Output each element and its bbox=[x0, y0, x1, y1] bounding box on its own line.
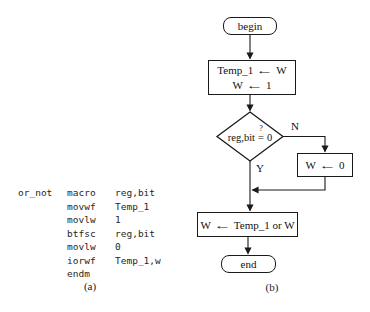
assign-rhs: W bbox=[276, 64, 286, 76]
process-line: W←1 bbox=[233, 78, 272, 93]
assign-rhs: 0 bbox=[339, 159, 345, 171]
question-equals-icon: ?= bbox=[258, 132, 264, 143]
assign-lhs: W bbox=[306, 159, 316, 171]
assign-lhs: Temp_1 bbox=[217, 64, 253, 76]
begin-node: begin bbox=[223, 17, 277, 35]
process-box-or: W←Temp_1 or W bbox=[197, 212, 298, 237]
assign-lhs: W bbox=[200, 219, 210, 231]
process-box-w-zero: W←0 bbox=[297, 153, 353, 177]
condition-value: 0 bbox=[267, 132, 272, 143]
decision-condition: reg,bit?=0 bbox=[214, 127, 286, 147]
condition-text: reg,bit bbox=[228, 132, 255, 143]
begin-label: begin bbox=[238, 20, 262, 32]
assign-arrow-icon: ← bbox=[246, 78, 264, 93]
branch-label-no: N bbox=[291, 120, 299, 132]
assign-rhs: Temp_1 or W bbox=[234, 219, 295, 231]
edge-no-box-to-merge bbox=[253, 177, 326, 190]
macro-flowchart-figure: or_not macro reg,bit movwf Temp_1 movlw … bbox=[0, 0, 370, 312]
process-line: W←0 bbox=[306, 159, 345, 171]
assign-arrow-icon: ← bbox=[319, 159, 337, 171]
assign-lhs: W bbox=[233, 79, 243, 91]
question-mark: ? bbox=[259, 124, 263, 133]
end-node: end bbox=[221, 255, 276, 273]
assign-arrow-icon: ← bbox=[214, 219, 232, 231]
assign-rhs: 1 bbox=[266, 79, 272, 91]
end-label: end bbox=[241, 258, 257, 270]
assign-arrow-icon: ← bbox=[256, 63, 274, 78]
process-line: W←Temp_1 or W bbox=[200, 219, 294, 231]
process-box-save-w: Temp_1←W W←1 bbox=[208, 60, 296, 95]
edge-no-branch bbox=[283, 137, 325, 152]
process-line: Temp_1←W bbox=[217, 63, 286, 78]
equals-sign: = bbox=[258, 132, 264, 143]
branch-label-yes: Y bbox=[256, 162, 264, 174]
